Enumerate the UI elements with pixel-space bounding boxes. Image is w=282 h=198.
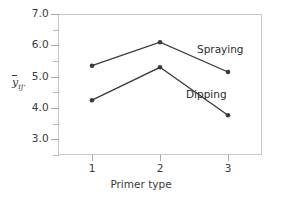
data-point-marker [158, 65, 163, 70]
series-layer [0, 0, 282, 198]
y-bar-symbol: y [12, 76, 18, 89]
data-point-marker [158, 40, 163, 45]
y-axis-title: yij· [12, 76, 26, 91]
series-label-spraying: Spraying [197, 43, 244, 55]
y-dot-symbol: · [23, 81, 26, 91]
x-axis-title: Primer type [0, 178, 282, 190]
data-point-marker [90, 63, 95, 68]
line-chart-figure: 3.04.05.06.07.0 123 Spraying Dipping yij… [0, 0, 282, 198]
data-point-marker [90, 98, 95, 103]
data-point-marker [226, 113, 231, 118]
data-point-marker [226, 70, 231, 75]
series-label-dipping: Dipping [186, 88, 227, 100]
